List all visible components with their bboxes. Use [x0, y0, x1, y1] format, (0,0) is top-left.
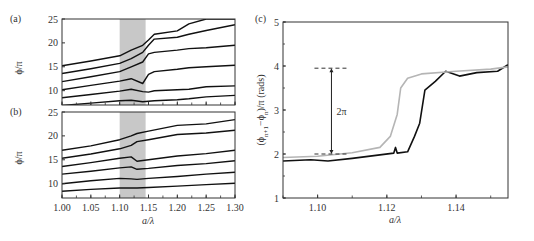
x-tick-label: 1.00	[53, 202, 71, 213]
data-series-2	[62, 130, 235, 158]
y-tick-label: 3	[274, 105, 279, 116]
data-series-5	[62, 172, 235, 184]
panel-b-label: (b)	[10, 106, 22, 118]
panel-a-ylabel: ϕ/π	[13, 61, 24, 74]
y-tick-label: 20	[48, 37, 58, 48]
y-tick-label: 2	[274, 149, 279, 160]
data-series-1	[62, 19, 235, 66]
panel-c-ylabel: (ϕn+1−ϕn)/π (rads)	[255, 75, 270, 146]
y-tick-label: 25	[48, 14, 58, 25]
x-tick-label: 1.30	[226, 202, 244, 213]
x-tick-label: 1.12	[378, 202, 396, 213]
data-series-1	[62, 120, 235, 151]
panel-a: 10152025	[48, 14, 235, 106]
arrow-head-up	[329, 68, 333, 72]
data-series-2	[283, 67, 508, 158]
panel-b: 101520251.001.051.101.151.201.251.30	[48, 107, 244, 214]
y-tick-label: 10	[48, 85, 58, 96]
x-tick-label: 1.14	[447, 202, 465, 213]
data-series-5	[62, 86, 235, 98]
y-tick-label: 5	[274, 17, 279, 28]
y-tick-label: 15	[48, 154, 58, 165]
x-tick-label: 1.20	[169, 202, 187, 213]
panel-c-xlabel: a/λ	[389, 214, 402, 225]
y-tick-label: 20	[48, 130, 58, 141]
y-tick-label: 25	[48, 107, 58, 118]
x-tick-label: 1.15	[140, 202, 158, 213]
y-tick-label: 15	[48, 61, 58, 72]
x-tick-label: 1.05	[82, 202, 100, 213]
y-tick-label: 1	[274, 193, 279, 204]
x-tick-label: 1.10	[111, 202, 129, 213]
data-series-3	[62, 45, 235, 81]
arrow-head-down	[329, 150, 333, 154]
data-series-6	[62, 183, 235, 191]
y-tick-label: 10	[48, 178, 58, 189]
data-series-1	[283, 65, 508, 161]
shaded-region	[120, 112, 146, 198]
x-tick-label: 1.10	[309, 202, 327, 213]
figure: 10152025 (a) ϕ/π 101520251.001.051.101.1…	[0, 0, 534, 241]
y-tick-label: 4	[274, 61, 279, 72]
x-tick-label: 1.25	[197, 202, 215, 213]
annotation-2pi: 2π	[336, 106, 346, 117]
data-series-3	[62, 150, 235, 166]
panel-b-ylabel: ϕ/π	[13, 151, 24, 164]
panel-b-xlabel: a/λ	[142, 215, 155, 226]
plot-frame	[283, 22, 508, 198]
panel-c-label: (c)	[255, 13, 266, 25]
panel-a-label: (a)	[10, 13, 21, 25]
panel-c: 123451.101.121.142π	[274, 17, 508, 214]
